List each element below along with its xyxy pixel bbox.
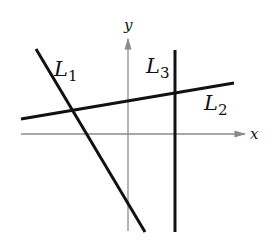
label-l3: L3 [145,54,170,82]
coordinate-diagram: x y L1 L3 L2 [0,0,272,248]
label-l1: L1 [53,57,78,85]
y-axis-label: y [123,16,133,34]
label-l2: L2 [203,91,228,119]
x-axis-label: x [250,125,259,143]
